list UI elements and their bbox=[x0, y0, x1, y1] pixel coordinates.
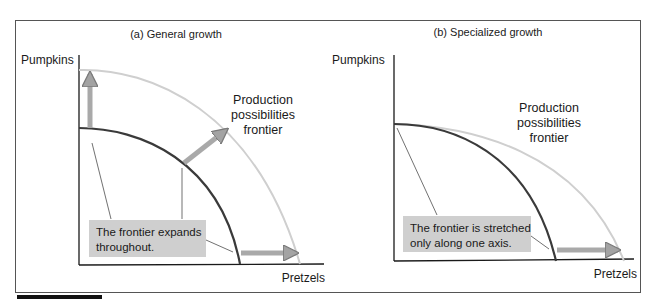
svg-text:frontier: frontier bbox=[530, 131, 569, 145]
panel-b: (b) Specialized growth Pumpkins Pretzels… bbox=[332, 26, 637, 281]
panel-b-frontier-label: Production possibilities frontier bbox=[517, 101, 581, 145]
panel-a-frontier-label: Production possibilities frontier bbox=[231, 93, 295, 137]
panel-b-note-line-2: only along one axis. bbox=[410, 237, 512, 249]
svg-text:Production: Production bbox=[519, 101, 579, 115]
figure-label-bar bbox=[17, 295, 102, 299]
svg-text:frontier: frontier bbox=[244, 123, 283, 137]
ppf-figure: (a) General growth Pumpkins Pretzels Pro… bbox=[0, 0, 655, 304]
panel-a-y-axis-label: Pumpkins bbox=[21, 53, 74, 67]
panel-b-title: (b) Specialized growth bbox=[434, 26, 543, 38]
panel-b-y-axis-label: Pumpkins bbox=[332, 53, 385, 67]
panel-a-leader-line bbox=[206, 240, 233, 252]
panel-a-x-axis-label: Pretzels bbox=[282, 271, 325, 285]
svg-text:possibilities: possibilities bbox=[517, 116, 581, 130]
svg-text:Production: Production bbox=[233, 93, 293, 107]
panel-a-title: (a) General growth bbox=[130, 28, 222, 40]
panel-a-diagonal-arrow bbox=[184, 130, 226, 163]
panel-a: (a) General growth Pumpkins Pretzels Pro… bbox=[21, 28, 325, 285]
svg-text:possibilities: possibilities bbox=[231, 108, 295, 122]
panel-a-note-line-1: The frontier expands bbox=[96, 226, 202, 238]
panel-b-leader-line bbox=[531, 236, 549, 249]
panel-a-x-axis bbox=[79, 264, 324, 265]
panel-b-note-line-1: The frontier is stretched bbox=[410, 222, 531, 234]
panel-b-x-axis-label: Pretzels bbox=[594, 267, 637, 281]
panel-a-leader-line bbox=[92, 143, 111, 219]
panel-b-leader-line bbox=[397, 128, 437, 215]
panel-a-note-line-2: throughout. bbox=[96, 241, 154, 253]
panel-b-x-axis bbox=[394, 259, 634, 261]
